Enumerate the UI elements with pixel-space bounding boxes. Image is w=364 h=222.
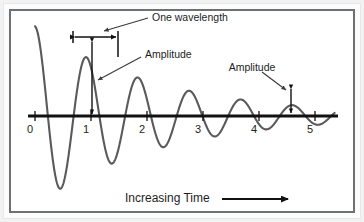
caption-group: Increasing Time bbox=[125, 191, 288, 205]
amplitude-annotation-right: Amplitude bbox=[229, 61, 291, 113]
axis-tick-label-2: 2 bbox=[139, 123, 145, 135]
axis-tick-label-0: 0 bbox=[27, 123, 33, 135]
amplitude-label-left: Amplitude bbox=[145, 48, 192, 60]
wavelength-label: One wavelength bbox=[152, 11, 228, 23]
figure-container: 012345 One wavelength Amplitude Amplitud… bbox=[0, 0, 364, 222]
axis-tick-label-5: 5 bbox=[307, 123, 313, 135]
axis-tick-label-4: 4 bbox=[251, 123, 257, 135]
amplitude-left-leader-line bbox=[98, 57, 141, 80]
axis-tick-label-1: 1 bbox=[83, 123, 89, 135]
amplitude-label-right: Amplitude bbox=[229, 61, 276, 73]
wavelength-leader-line bbox=[104, 18, 148, 31]
amplitude-annotation-left: Amplitude bbox=[92, 42, 192, 114]
axis-tick-label-3: 3 bbox=[195, 123, 201, 135]
amplitude-right-leader-line bbox=[262, 72, 286, 90]
wave-diagram-svg: 012345 One wavelength Amplitude Amplitud… bbox=[0, 0, 364, 222]
increasing-time-label: Increasing Time bbox=[125, 191, 210, 205]
